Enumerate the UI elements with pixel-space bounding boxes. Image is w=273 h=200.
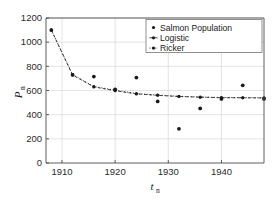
y-axis-title-sub: n [18,86,27,90]
data-point-ricker [114,89,117,92]
data-point-salmon-population [241,83,245,87]
figure-container: 020040060080010001200 1910192019301940 P… [0,0,273,200]
y-tick-label: 1200 [21,12,42,23]
data-point-ricker [241,96,244,99]
data-point-ricker [92,85,95,88]
y-tick-label: 600 [26,85,42,96]
data-point-ricker [177,95,180,98]
x-tick-label: 1920 [105,166,126,177]
y-tick-label: 800 [26,61,42,72]
data-point-salmon-population [134,76,138,80]
y-axis-title-main: P [12,91,24,99]
x-tick-label: 1910 [51,166,72,177]
y-tick-label: 400 [26,109,42,120]
x-tick-label: 1940 [211,166,232,177]
data-point-salmon-population [92,75,96,79]
data-point-ricker [71,73,74,76]
legend-label-logistic: Logistic [160,33,190,43]
salmon-population-chart: 020040060080010001200 1910192019301940 P… [0,0,273,200]
data-point-ricker [135,92,138,95]
y-tick-label: 1000 [21,36,42,47]
data-point-ricker [199,96,202,99]
data-point-ricker [220,96,223,99]
y-axis-title: P n [12,86,27,99]
data-point-salmon-population [198,106,202,110]
data-point-ricker [156,94,159,97]
x-axis-title-main: t [150,180,154,192]
data-point-salmon-population [156,99,160,103]
legend-label-ricker: Ricker [160,43,184,53]
y-tick-label: 200 [26,133,42,144]
x-axis-title-sub: n [156,186,160,195]
legend-label-salmon-population: Salmon Population [160,23,232,33]
data-point-salmon-population [177,127,181,131]
legend-marker-ricker [152,47,155,50]
x-tick-label: 1930 [158,166,179,177]
legend-marker-logistic [152,36,155,39]
legend[interactable]: Salmon PopulationLogisticRicker [146,20,262,54]
x-axis-title: t n [150,180,160,195]
data-point-ricker [50,29,53,32]
y-tick-label: 0 [37,157,42,168]
legend-marker-salmon-population [152,26,155,29]
